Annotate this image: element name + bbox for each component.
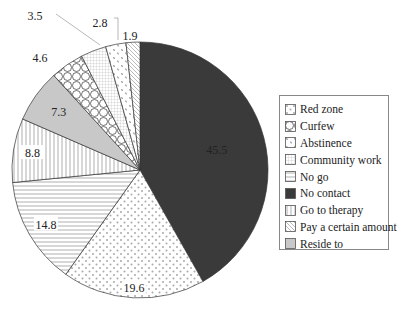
slice-value-label: 3.5 — [28, 9, 43, 23]
legend-label: Abstinence — [300, 137, 352, 149]
legend-label: Curfew — [300, 120, 335, 132]
legend-swatch-icon — [285, 188, 296, 199]
legend-label: Reside to — [300, 238, 343, 250]
slice-value-label: 1.9 — [123, 29, 138, 43]
legend-item-curfew: Curfew — [285, 118, 388, 135]
legend-label: No contact — [300, 187, 350, 199]
legend-item-go-to-therapy: Go to therapy — [285, 202, 388, 219]
pie-slices — [12, 42, 268, 298]
legend-label: Red zone — [300, 103, 343, 115]
legend-item-abstinence: Abstinence — [285, 135, 388, 152]
legend-swatch-icon — [285, 137, 296, 148]
legend: Red zoneCurfewAbstinenceCommunity workNo… — [279, 95, 389, 250]
legend-item-pay-a-certain-amount: Pay a certain amount — [285, 219, 388, 236]
legend-swatch-icon — [285, 238, 296, 249]
slice-value-label: 45.5 — [206, 143, 227, 157]
legend-swatch-icon — [285, 121, 296, 132]
legend-swatch-icon — [285, 205, 296, 216]
slice-value-label: 7.3 — [51, 105, 66, 119]
slice-value-label: 4.6 — [33, 51, 48, 65]
legend-item-red-zone: Red zone — [285, 101, 388, 118]
legend-item-community-work: Community work — [285, 151, 388, 168]
slice-value-label: 8.8 — [25, 146, 40, 160]
legend-label: No go — [300, 171, 328, 183]
legend-label: Go to therapy — [300, 204, 363, 216]
legend-swatch-icon — [285, 221, 296, 232]
slice-value-label: 14.8 — [35, 218, 56, 232]
slice-value-label: 19.6 — [123, 281, 144, 295]
legend-swatch-icon — [285, 154, 296, 165]
legend-swatch-icon — [285, 104, 296, 115]
legend-item-no-go: No go — [285, 168, 388, 185]
legend-item-no-contact: No contact — [285, 185, 388, 202]
legend-swatch-icon — [285, 171, 296, 182]
legend-label: Pay a certain amount — [300, 221, 397, 233]
legend-item-reside-to: Reside to — [285, 235, 388, 252]
legend-label: Community work — [300, 154, 381, 166]
slice-value-label: 2.8 — [93, 16, 108, 30]
